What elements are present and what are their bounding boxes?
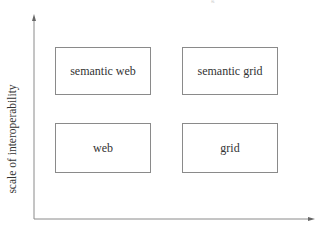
quadrant-label: web [93, 141, 113, 156]
y-axis-arrow-icon [32, 14, 36, 21]
quadrant-grid: grid [182, 123, 278, 173]
x-axis [34, 217, 315, 221]
y-axis-label: scale of interoperability [6, 84, 18, 193]
quadrant-semantic-web: semantic web [55, 47, 151, 95]
axes [0, 0, 327, 237]
quadrant-semantic-grid: semantic grid [182, 47, 278, 95]
quadrant-label: semantic web [70, 64, 136, 79]
quadrant-label: grid [220, 141, 239, 156]
quadrant-web: web [55, 123, 151, 173]
x-axis-arrow-icon [308, 217, 315, 221]
y-axis [32, 14, 36, 219]
quadrant-label: semantic grid [198, 64, 263, 79]
